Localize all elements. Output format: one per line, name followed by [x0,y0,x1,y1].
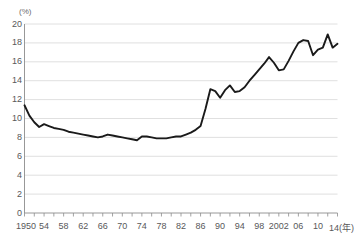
y-tick-20: 20 [0,19,22,29]
y-tick-14: 14 [0,75,22,85]
x-tick-94: 94 [235,221,245,231]
y-tick-16: 16 [0,56,22,66]
y-tick-10: 10 [0,113,22,123]
y-tick-4: 4 [0,170,22,180]
data-series-line [25,34,338,140]
x-tick-78: 78 [156,221,166,231]
line-chart: (%) 20181614121086420 195054586266707478… [0,0,359,245]
x-tick-98: 98 [254,221,264,231]
x-axis-minor-ticks [25,213,338,217]
chart-plot-area [0,0,359,245]
x-tick-82: 82 [176,221,186,231]
y-tick-8: 8 [0,132,22,142]
x-tick-54: 54 [39,221,49,231]
x-tick-58: 58 [59,221,69,231]
y-tick-6: 6 [0,151,22,161]
x-tick-1950: 1950 [16,221,36,231]
y-tick-12: 12 [0,94,22,104]
x-tick-66: 66 [98,221,108,231]
x-tick-90: 90 [215,221,225,231]
x-tick-14: 14(年) [329,221,354,234]
x-tick-06: 06 [293,221,303,231]
x-tick-74: 74 [137,221,147,231]
gridlines [25,24,338,194]
x-tick-2002: 2002 [269,221,289,231]
x-tick-10: 10 [313,221,323,231]
x-tick-70: 70 [117,221,127,231]
x-tick-62: 62 [78,221,88,231]
y-tick-2: 2 [0,189,22,199]
y-tick-0: 0 [0,208,22,218]
y-tick-18: 18 [0,37,22,47]
x-tick-86: 86 [196,221,206,231]
